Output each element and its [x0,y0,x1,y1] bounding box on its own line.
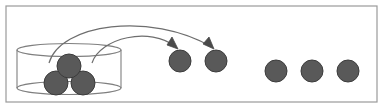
ball-transfer-diagram: Balls being removed from a container and… [0,0,384,109]
ball-in-container-top [57,54,81,78]
ball-row-2 [301,60,323,82]
figure-root: Balls being removed from a container and… [0,0,384,109]
balls-row-group [265,60,359,82]
ball-placed-1 [169,50,191,72]
ball-row-3 [337,60,359,82]
ball-placed-2 [205,50,227,72]
ball-row-1 [265,60,287,82]
